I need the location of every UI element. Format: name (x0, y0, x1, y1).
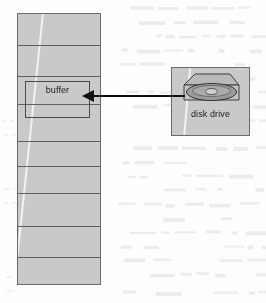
memory-divider (18, 226, 100, 227)
disk-drive-box: disk drive (171, 67, 250, 136)
memory-divider (18, 141, 100, 142)
memory-divider (18, 193, 100, 194)
memory-divider (18, 166, 100, 167)
data-transfer-arrow-line (93, 95, 185, 97)
memory-divider (18, 257, 100, 258)
data-transfer-arrow-head (82, 90, 94, 102)
disk-drive-label: disk drive (172, 109, 249, 119)
disk-drive-icon (183, 73, 240, 106)
memory-column (17, 13, 101, 285)
memory-divider (18, 45, 100, 46)
memory-divider (18, 76, 100, 77)
buffer-label: buffer (26, 85, 89, 95)
scan-streak (18, 14, 100, 284)
buffer-box: buffer (25, 81, 90, 118)
buffer-disk-diagram: buffer disk drive (0, 0, 266, 303)
